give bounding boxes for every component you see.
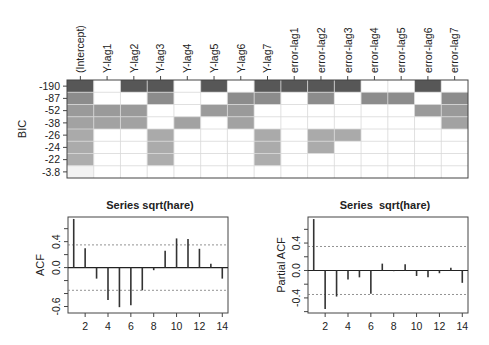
bic-cell	[227, 92, 254, 104]
bic-cell	[67, 154, 94, 166]
bic-cell	[120, 105, 147, 117]
bic-cell	[361, 154, 388, 166]
bic-cell	[147, 129, 174, 141]
bic-cell	[415, 166, 442, 178]
acf-x-tick-label: 14	[216, 320, 228, 332]
bic-cell	[94, 105, 121, 117]
pacf-plot-body: 2468101214-0.40.00.4	[290, 217, 468, 332]
bic-cell	[334, 105, 361, 117]
bic-cell	[147, 105, 174, 117]
bic-cell	[201, 129, 228, 141]
bic-cell	[334, 92, 361, 104]
bic-row-label: -190	[39, 80, 60, 92]
bic-cell	[94, 154, 121, 166]
bic-cell	[334, 154, 361, 166]
bic-cell	[415, 92, 442, 104]
bic-cell	[308, 166, 335, 178]
bic-cell	[94, 166, 121, 178]
bic-cell	[308, 105, 335, 117]
bic-column-label: error-lag3	[342, 27, 354, 73]
bic-cell	[388, 154, 415, 166]
acf-x-tick-label: 10	[171, 320, 183, 332]
bic-cell	[147, 141, 174, 153]
bic-cell	[174, 80, 201, 92]
bic-cell	[308, 154, 335, 166]
bic-cell	[281, 129, 308, 141]
bic-cell	[227, 117, 254, 129]
bic-column-label: Y-lag7	[261, 43, 273, 73]
bic-cell	[120, 166, 147, 178]
bic-cell	[201, 92, 228, 104]
acf-frame	[68, 217, 228, 313]
bic-cell	[94, 92, 121, 104]
bic-row-label: -26	[45, 129, 60, 141]
acf-y-tick-label: 0.0	[50, 260, 62, 275]
bic-cell	[334, 80, 361, 92]
bic-column-label: error-lag5	[395, 27, 407, 73]
bic-cell	[254, 117, 281, 129]
bic-cell	[441, 105, 468, 117]
bic-cell	[174, 129, 201, 141]
pacf-x-tick-label: 2	[322, 320, 328, 332]
bic-subset-panel: (Intercept)Y-lag1Y-lag2Y-lag3Y-lag4Y-lag…	[16, 25, 468, 178]
bic-cell	[441, 117, 468, 129]
acf-plot-body: 2468101214-0.60.00.4	[50, 217, 228, 332]
bic-cell	[254, 154, 281, 166]
bic-cell	[415, 129, 442, 141]
bic-cell	[67, 80, 94, 92]
bic-cell	[120, 117, 147, 129]
bic-cell	[334, 166, 361, 178]
bic-row-label: -22	[45, 153, 60, 165]
acf-panel: Series sqrt(hare) ACF 2468101214-0.60.00…	[34, 199, 228, 332]
bic-cell	[67, 117, 94, 129]
bic-column-label: Y-lag1	[101, 43, 113, 73]
bic-cell	[308, 80, 335, 92]
bic-row-labels: -190-87-52-38-26-24-22-3.8	[39, 80, 67, 178]
bic-cell	[227, 166, 254, 178]
pacf-x-tick-label: 6	[368, 320, 374, 332]
bic-cell	[388, 117, 415, 129]
acf-y-axis-label: ACF	[34, 254, 46, 276]
bic-column-label: (Intercept)	[74, 25, 86, 73]
bic-cell	[174, 105, 201, 117]
bic-cell	[334, 141, 361, 153]
bic-cell	[361, 166, 388, 178]
bic-cell	[201, 80, 228, 92]
bic-cell	[308, 129, 335, 141]
bic-cell	[94, 80, 121, 92]
pacf-x-tick-label: 14	[456, 320, 468, 332]
pacf-y-tick-label: 0.4	[290, 236, 302, 251]
bic-cell	[227, 105, 254, 117]
bic-column-label: Y-lag6	[235, 43, 247, 73]
bic-cell	[441, 92, 468, 104]
pacf-panel: Series sqrt(hare) Partial ACF 2468101214…	[275, 199, 468, 332]
bic-cell	[67, 105, 94, 117]
bic-cell	[120, 141, 147, 153]
bic-cell	[361, 105, 388, 117]
bic-cell	[334, 129, 361, 141]
bic-column-label: Y-lag2	[128, 43, 140, 73]
bic-cell	[281, 117, 308, 129]
pacf-y-tick-label: 0.0	[290, 263, 302, 278]
bic-cell	[281, 92, 308, 104]
bic-cell	[254, 166, 281, 178]
bic-cell	[120, 92, 147, 104]
bic-cell	[67, 166, 94, 178]
bic-cell	[361, 129, 388, 141]
pacf-y-axis-label: Partial ACF	[275, 237, 287, 293]
bic-cell	[441, 154, 468, 166]
bic-cell	[94, 117, 121, 129]
bic-column-label: error-lag1	[288, 27, 300, 73]
bic-cell	[147, 117, 174, 129]
bic-column-label: error-lag4	[368, 27, 380, 73]
bic-cell	[361, 141, 388, 153]
bic-cell	[388, 92, 415, 104]
figure: (Intercept)Y-lag1Y-lag2Y-lag3Y-lag4Y-lag…	[0, 0, 489, 345]
bic-cell	[174, 92, 201, 104]
bic-cell	[201, 154, 228, 166]
bic-cell	[201, 166, 228, 178]
bic-cell	[281, 105, 308, 117]
bic-cell	[441, 166, 468, 178]
bic-row-label: -3.8	[42, 166, 60, 178]
acf-y-tick-label: 0.4	[50, 234, 62, 249]
